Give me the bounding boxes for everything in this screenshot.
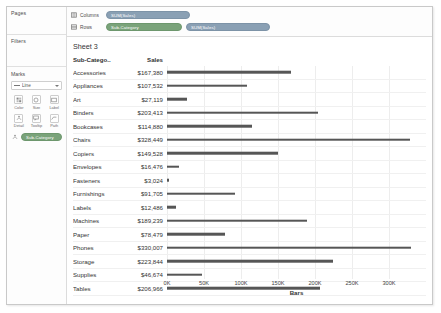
cell-sales: $78,479	[125, 231, 167, 238]
cell-sub-category: Phones	[73, 244, 125, 251]
line-mark-icon	[14, 83, 20, 89]
rows-shelf-label: Rows	[80, 25, 106, 30]
label-icon	[50, 95, 59, 104]
cell-bar-track	[167, 93, 426, 106]
pill-rows-sum-sales[interactable]: SUM(Sales)	[186, 23, 270, 31]
table-row[interactable]: Bookcases$114,880	[73, 120, 426, 134]
bar-mark[interactable]	[167, 206, 176, 209]
bar-mark[interactable]	[167, 98, 187, 101]
x-tick-label: 150K	[271, 280, 284, 286]
bar-mark[interactable]	[167, 71, 291, 74]
sheet-title: Sheet 3	[73, 42, 426, 51]
bar-mark[interactable]	[167, 125, 252, 128]
cell-sub-category: Envelopes	[73, 163, 125, 170]
cell-sub-category: Tables	[73, 285, 125, 292]
header-plot-spacer	[167, 54, 426, 66]
cell-bar-track	[167, 120, 426, 133]
rows-shelf[interactable]: Rows Sub-Category SUM(Sales)	[71, 22, 428, 32]
table-row[interactable]: Labels$12,486	[73, 201, 426, 215]
marks-path-button[interactable]: Path	[46, 113, 62, 130]
main-area: Columns SUM(Sales) Rows Sub-Category SUM…	[67, 7, 432, 304]
pill-columns-sum-sales[interactable]: SUM(Sales)	[106, 11, 190, 19]
columns-shelf[interactable]: Columns SUM(Sales)	[71, 10, 428, 20]
x-tick-label: 250K	[345, 280, 358, 286]
pill-rows-sub-category[interactable]: Sub-Category	[106, 23, 182, 31]
cell-bar-track	[167, 215, 426, 228]
cell-sub-category: Labels	[73, 204, 125, 211]
x-tick-label: 300K	[382, 280, 395, 286]
table-row[interactable]: Paper$78,479	[73, 228, 426, 242]
marks-label-button[interactable]: Label	[46, 94, 62, 111]
table-row[interactable]: Storage$223,844	[73, 255, 426, 269]
visualization: Sub-Catego.. Sales Accessories$167,380Ap…	[73, 54, 426, 301]
columns-shelf-label: Columns	[80, 13, 106, 18]
table-row[interactable]: Binders$203,413	[73, 107, 426, 121]
table-row[interactable]: Fasteners$3,024	[73, 174, 426, 188]
cell-bar-track	[167, 161, 426, 174]
cell-sales: $27,119	[125, 96, 167, 103]
bar-mark[interactable]	[167, 219, 307, 222]
cell-bar-track	[167, 107, 426, 120]
table-row[interactable]: Copiers$149,528	[73, 147, 426, 161]
cell-sales: $16,476	[125, 163, 167, 170]
table-row[interactable]: Accessories$167,380	[73, 66, 426, 80]
cell-sub-category: Chairs	[73, 136, 125, 143]
marks-card-title: Marks	[11, 70, 62, 78]
cell-sales: $46,674	[125, 271, 167, 278]
table-row[interactable]: Machines$189,239	[73, 215, 426, 229]
table-row[interactable]: Chairs$328,449	[73, 134, 426, 148]
bar-mark[interactable]	[167, 233, 225, 236]
marks-detail-pill-row: Sub-Category	[11, 133, 62, 141]
bar-mark[interactable]	[167, 111, 318, 114]
marks-type-dropdown[interactable]: Line	[11, 81, 62, 90]
marks-label-label: Label	[49, 105, 59, 111]
marks-detail-button[interactable]: Detail	[11, 113, 27, 130]
marks-color-button[interactable]: Color	[11, 94, 27, 111]
columns-shelf-pills: SUM(Sales)	[106, 11, 428, 19]
header-sales[interactable]: Sales	[125, 54, 167, 66]
bar-mark[interactable]	[167, 273, 202, 276]
bar-mark[interactable]	[167, 246, 411, 249]
cell-sub-category: Paper	[73, 231, 125, 238]
bar-mark[interactable]	[167, 138, 410, 141]
detail-icon	[14, 114, 23, 123]
marks-size-label: Size	[33, 105, 41, 111]
marks-card: Marks Line Color	[7, 67, 66, 304]
marks-tooltip-button[interactable]: Tooltip	[29, 113, 45, 130]
pages-shelf[interactable]: Pages	[7, 7, 66, 35]
header-sub-category[interactable]: Sub-Catego..	[73, 54, 125, 66]
cell-sub-category: Bookcases	[73, 123, 125, 130]
cell-sales: $12,486	[125, 204, 167, 211]
cell-sub-category: Machines	[73, 217, 125, 224]
cell-sales: $3,024	[125, 177, 167, 184]
marks-size-button[interactable]: Size	[29, 94, 45, 111]
cell-sub-category: Binders	[73, 109, 125, 116]
x-tick-label: 50K	[199, 280, 209, 286]
bar-mark[interactable]	[167, 152, 278, 155]
path-icon	[50, 114, 59, 123]
cell-bar-track	[167, 242, 426, 255]
bar-mark[interactable]	[167, 192, 235, 195]
table-row[interactable]: Appliances$107,532	[73, 80, 426, 94]
cell-bar-track	[167, 228, 426, 241]
marks-detail-label: Detail	[14, 123, 24, 129]
cell-sales: $107,532	[125, 82, 167, 89]
left-sidebar: Pages Filters Marks Line	[7, 7, 67, 304]
chevron-down-icon	[55, 85, 59, 87]
bar-mark[interactable]	[167, 84, 247, 87]
cell-bar-track	[167, 188, 426, 201]
table-row[interactable]: Furnishings$91,705	[73, 188, 426, 202]
table-row[interactable]: Phones$330,007	[73, 242, 426, 256]
cell-sub-category: Storage	[73, 258, 125, 265]
cell-sales: $114,880	[125, 123, 167, 130]
table-row[interactable]: Envelopes$16,476	[73, 161, 426, 175]
columns-icon	[71, 12, 77, 18]
cell-sales: $328,449	[125, 136, 167, 143]
filters-shelf[interactable]: Filters	[7, 35, 66, 67]
marks-pill-sub-category[interactable]: Sub-Category	[21, 133, 62, 141]
cell-sales: $330,007	[125, 244, 167, 251]
bar-mark[interactable]	[167, 260, 333, 263]
table-row[interactable]: Art$27,119	[73, 93, 426, 107]
bar-mark[interactable]	[167, 179, 169, 182]
bar-mark[interactable]	[167, 165, 179, 168]
